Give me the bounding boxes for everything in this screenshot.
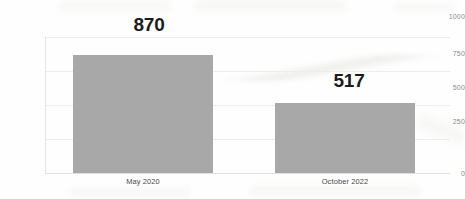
scan-artifact [60,2,170,11]
scan-artifact [395,3,455,11]
bar-may-2020[interactable] [73,55,213,173]
x-axis-line [46,173,450,174]
bar-october-2022[interactable] [275,103,415,173]
gridline-1000 [46,37,450,38]
y-axis-tick-label-1000: 1000 [427,13,465,20]
bar-value-label-october-2022: 517 [318,71,380,90]
x-axis-category-label-october-2022: October 2022 [275,178,415,186]
scan-artifact [70,188,190,197]
scan-artifact [195,0,345,11]
x-axis-category-label-may-2020: May 2020 [73,178,213,186]
bar-value-label-may-2020: 870 [118,15,180,34]
plot-area [46,37,450,173]
scan-artifact [250,186,420,196]
bar-chart: 1000 750 500 250 0 870 517 May 2020 Octo… [0,0,465,199]
